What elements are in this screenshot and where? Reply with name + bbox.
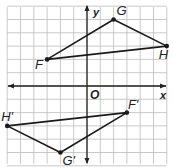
vertex-label: F' [128, 97, 139, 112]
triangle-f-g-h-prime: F'G'H' [1, 97, 139, 168]
vertex-label: G' [62, 153, 75, 168]
x-axis-left-arrow-icon [8, 84, 14, 89]
vertex-point [5, 124, 10, 129]
triangle-outline [7, 113, 127, 153]
vertex-point [45, 57, 50, 62]
vertex-label: G [117, 3, 127, 18]
axes [8, 5, 166, 164]
triangle-outline [47, 20, 167, 60]
vertex-label: F [35, 57, 44, 72]
y-axis-label: y [92, 6, 100, 18]
y-axis-down-arrow-icon [85, 158, 90, 164]
x-axis-label: x [159, 89, 167, 101]
coordinate-plane: FGH F'G'H' y x O [0, 0, 173, 168]
x-axis-right-arrow-icon [160, 84, 166, 89]
vertex-label: H [159, 47, 169, 62]
triangle-fgh: FGH [35, 3, 169, 73]
vertex-point [111, 17, 116, 22]
vertex-label: H' [1, 109, 13, 124]
origin-label: O [90, 88, 100, 102]
